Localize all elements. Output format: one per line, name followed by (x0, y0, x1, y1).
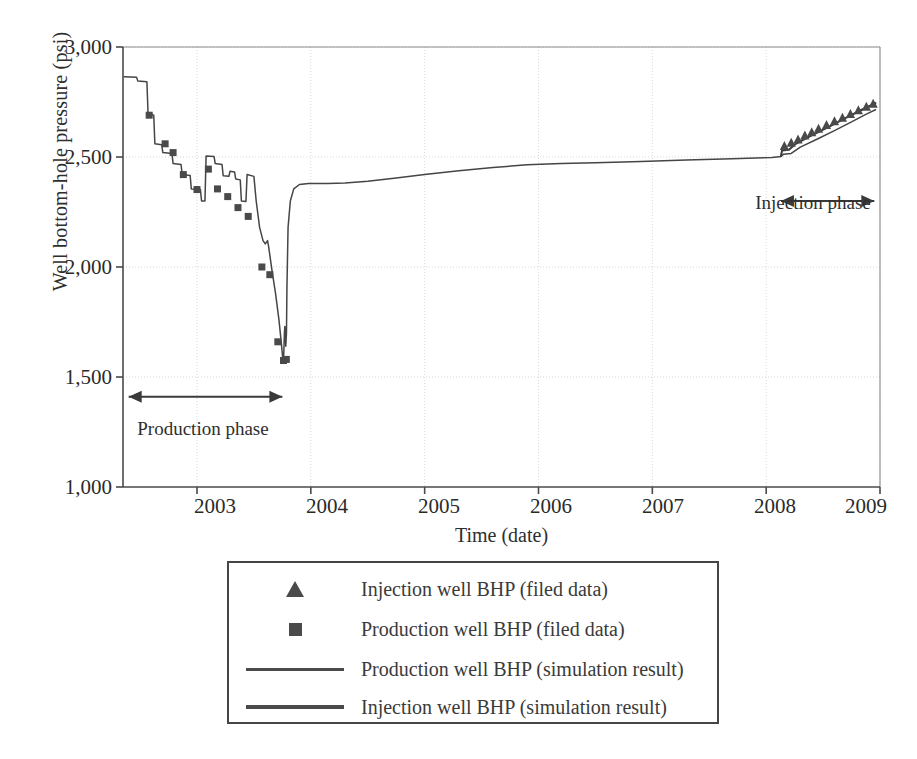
legend-label: Injection well BHP (simulation result) (361, 696, 667, 719)
legend-label: Production well BHP (filed data) (361, 618, 625, 641)
legend-item-production-filed: Production well BHP (filed data) (229, 609, 717, 649)
data-series-layer (124, 77, 878, 364)
legend-item-injection-filed: Injection well BHP (filed data) (229, 569, 717, 609)
thick-line-icon (229, 705, 361, 709)
square-marker-icon (229, 623, 361, 636)
legend-label: Production well BHP (simulation result) (361, 658, 684, 681)
legend-item-injection-sim: Injection well BHP (simulation result) (229, 687, 717, 727)
figure: Well bottom-hole pressure (psi) 3,000 2,… (0, 0, 917, 759)
injection-phase-annotation: Injection phase (730, 192, 896, 214)
legend-item-production-sim: Production well BHP (simulation result) (229, 649, 717, 689)
legend-label: Injection well BHP (filed data) (361, 578, 608, 601)
production-phase-annotation: Production phase (118, 418, 288, 440)
annotation-arrows (129, 195, 875, 403)
triangle-marker-icon (229, 581, 361, 597)
thin-line-icon (229, 668, 361, 671)
legend: Injection well BHP (filed data) Producti… (227, 561, 719, 724)
